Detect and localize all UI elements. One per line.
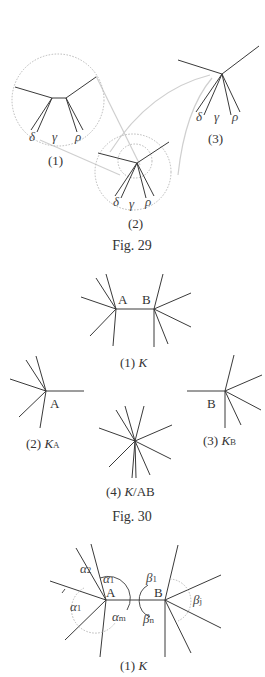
- panel-label: (1) K: [120, 355, 148, 370]
- figure-canvas: δ γ ρ (1) δ γ ρ (2) δ: [0, 0, 265, 677]
- greek-gamma: γ: [129, 196, 135, 211]
- fig29-panel-2: δ γ ρ (2): [95, 134, 171, 231]
- fig29-panel-3: δ γ ρ (3): [178, 46, 259, 146]
- angle-label-beta-j: βj: [192, 592, 202, 607]
- greek-gamma: γ: [52, 129, 58, 144]
- fig29-panel-1: δ γ ρ (1): [12, 54, 104, 168]
- greek-rho: ρ: [74, 129, 81, 144]
- vertex-label-b: B: [154, 585, 163, 600]
- connector-2-3-curve: [110, 75, 210, 152]
- greek-delta: δ: [29, 129, 36, 144]
- greek-rho: ρ: [144, 194, 151, 209]
- panel-label: (3): [208, 131, 223, 146]
- angle-arc-dotted-b: [170, 579, 191, 621]
- connector-1-2: [96, 76, 140, 165]
- angle-label-alpha-1-left: α1: [70, 599, 81, 614]
- dotted-circle: [12, 54, 104, 146]
- greek-delta: δ: [113, 194, 120, 209]
- angle-label-beta-n: βn: [142, 611, 154, 626]
- panel-label: (1) K: [120, 658, 148, 673]
- panel-label: (2): [128, 216, 143, 231]
- angle-label-alpha-2: α2: [80, 561, 91, 576]
- fig30-panel-2: A (2) KA: [10, 356, 84, 451]
- vertex-label-a: A: [118, 292, 128, 307]
- vertex-label-b: B: [142, 292, 151, 307]
- panel-label: (3) KB: [203, 433, 236, 448]
- fig31-panel-1: A B α2 α1 α1 αm β1 βj βn (1) K: [50, 544, 221, 673]
- figure-caption: Fig. 29: [112, 238, 152, 253]
- fig30-panel-3: B (3) KB: [187, 355, 262, 448]
- connector-2-3-curve-b: [178, 78, 212, 175]
- fig30: A B (1) K A (2) KA B (3) KB: [10, 274, 262, 524]
- panel-label: (2) KA: [26, 436, 60, 451]
- greek-rho: ρ: [231, 109, 238, 124]
- angle-label-beta-1: β1: [145, 570, 157, 585]
- fig29: δ γ ρ (1) δ γ ρ (2) δ: [12, 46, 259, 253]
- vertex-label-a: A: [50, 396, 60, 411]
- panel-label: (1): [48, 153, 63, 168]
- fig30-panel-4: (4) K/AB: [99, 406, 172, 499]
- greek-delta: δ: [196, 109, 203, 124]
- figure-caption: Fig. 30: [112, 509, 152, 524]
- dotted-circle-inner: [118, 144, 152, 178]
- vertex-label-b: B: [207, 396, 216, 411]
- angle-label-alpha-m: αm: [112, 609, 126, 624]
- tick: [62, 589, 65, 593]
- angle-label-alpha-1-top: α1: [103, 571, 114, 586]
- panel-label: (4) K/AB: [106, 484, 155, 499]
- greek-gamma: γ: [214, 109, 220, 124]
- fig30-panel-1: A B (1) K: [81, 274, 191, 370]
- vertex-label-a: A: [106, 585, 116, 600]
